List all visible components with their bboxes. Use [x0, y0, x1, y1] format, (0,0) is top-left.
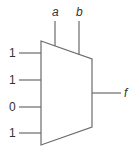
select-label-a: a [52, 5, 59, 19]
data-input-label-0: 1 [9, 46, 16, 60]
select-label-b: b [76, 5, 83, 19]
mux-diagram: a b 1 1 0 1 f [0, 0, 135, 153]
output-label-f: f [124, 86, 129, 100]
data-input-label-1: 1 [9, 73, 16, 87]
mux-body [41, 41, 92, 145]
data-input-label-2: 0 [9, 100, 16, 114]
data-input-label-3: 1 [9, 126, 16, 140]
